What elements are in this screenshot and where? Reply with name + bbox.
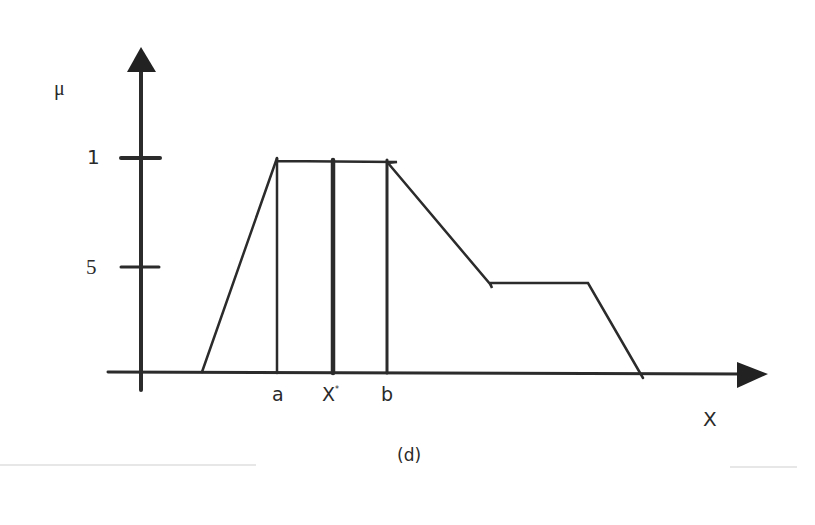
figure-caption: (d) (397, 445, 421, 465)
x-tick-label-xstar-text: X (322, 383, 335, 405)
y-tick-label-5: 5 (86, 255, 97, 280)
x-axis-label: X (703, 407, 717, 431)
y-axis-label: μ (54, 77, 65, 100)
x-axis-arrow-icon (737, 362, 768, 388)
x-tick-label-a: a (272, 383, 284, 405)
x-tick-label-xstar: X* (322, 383, 339, 405)
membership-curve (202, 158, 643, 378)
y-tick-label-1: 1 (87, 145, 100, 169)
x-axis (108, 372, 745, 374)
y-axis-arrow-icon (127, 47, 156, 72)
x-tick-label-b: b (381, 383, 393, 405)
